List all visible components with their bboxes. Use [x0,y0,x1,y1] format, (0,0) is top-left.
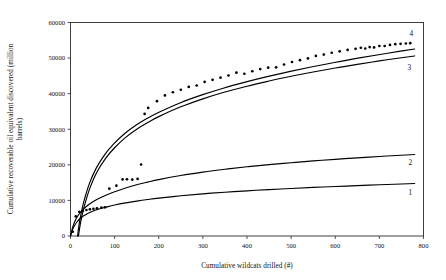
x-axis-ticks: 0100200300400500600700800 [69,236,429,249]
scatter-point [368,46,371,49]
scatter-point [108,187,111,190]
plot-frame [71,23,424,237]
scatter-point [373,46,376,49]
series-label-2: 2 [409,158,413,167]
scatter-point [383,45,386,48]
scatter-point [251,70,254,73]
scatter-point [405,42,408,45]
series-label-1: 1 [409,188,413,197]
scatter-point [74,215,77,218]
x-tick-label: 300 [198,242,209,249]
scatter-point [275,66,278,69]
x-tick-label: 600 [330,242,341,249]
scatter-point [104,206,107,209]
scatter-point [283,63,286,66]
scatter-point [389,44,392,47]
scatter-point [399,43,402,46]
series-label-4: 4 [410,29,414,38]
scatter-point [96,207,99,210]
scatter-point [156,100,159,103]
scatter-point [126,178,129,181]
curve-top-fit [78,49,415,236]
series-label-3: 3 [408,63,412,72]
scatter-point [291,61,294,64]
y-tick-label: 50000 [49,54,66,61]
y-axis-ticks: 0100002000030000400005000060000 [49,19,71,240]
scatter-point [143,113,146,116]
x-tick-label: 400 [242,242,253,249]
curve-3 [78,56,414,236]
scatter-point [338,50,341,53]
oil-discovery-chart: 0100002000030000400005000060000 01002003… [0,0,446,280]
scatter-point [243,72,246,75]
scatter-point [195,84,198,87]
scatter-point [359,46,362,49]
scatter-point [211,78,214,81]
scatter-point [187,86,190,89]
scatter-point [164,94,167,97]
x-axis-title: Cumulative wildcats drilled (#) [201,262,293,270]
scatter-point [267,66,270,69]
scatter-point [322,53,325,56]
scatter-point [354,47,357,50]
data-curves [71,49,415,236]
scatter-point [179,88,182,91]
scatter-point [346,49,349,52]
y-axis-title-line1: Cumulative recoverable oil equivalent di… [7,43,15,214]
scatter-point [100,206,103,209]
scatter-point [299,59,302,62]
scatter-point [89,208,92,211]
scatter-point [259,68,262,71]
y-tick-label: 0 [62,232,66,239]
scatter-point [394,43,397,46]
x-tick-label: 100 [110,242,121,249]
scatter-point [219,76,222,79]
x-tick-label: 500 [286,242,297,249]
scatter-point [307,57,310,60]
scatter-point [82,209,85,212]
x-tick-label: 0 [69,242,73,249]
scatter-point [364,47,367,50]
x-tick-label: 200 [154,242,165,249]
y-axis-title-line2: barrels) [16,117,24,140]
scatter-point [85,209,88,212]
scatter-point [330,51,333,54]
series-end-labels: 1234 [408,29,414,196]
scatter-point [131,178,134,181]
scatter-point [121,178,124,181]
scatter-point [140,163,143,166]
scatter-point [78,210,81,213]
chart-figure: 0100002000030000400005000060000 01002003… [0,0,446,280]
scatter-point [203,81,206,84]
scatter-point [147,107,150,110]
curve-1 [71,184,415,236]
x-tick-label: 700 [374,242,385,249]
data-points [71,42,411,233]
scatter-point [92,207,95,210]
y-tick-label: 60000 [49,19,66,26]
y-tick-label: 40000 [49,90,66,97]
y-tick-label: 20000 [49,161,66,168]
scatter-point [235,71,238,74]
scatter-point [409,42,412,45]
curve-2 [71,155,415,236]
scatter-point [314,55,317,58]
scatter-point [115,184,118,187]
scatter-point [172,91,175,94]
y-tick-label: 10000 [49,197,66,204]
scatter-point [227,74,230,77]
scatter-point [378,45,381,48]
y-tick-label: 30000 [49,126,66,133]
scatter-point [136,178,139,181]
scatter-point [71,230,74,233]
x-tick-label: 800 [419,242,430,249]
